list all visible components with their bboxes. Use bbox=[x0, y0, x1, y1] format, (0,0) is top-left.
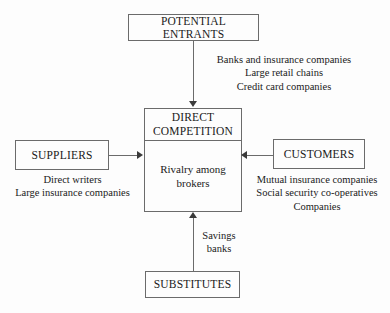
box-customers-label: CUSTOMERS bbox=[284, 148, 355, 161]
direct-competition-body: Rivalry among brokers bbox=[145, 141, 241, 211]
box-substitutes-label: SUBSTITUTES bbox=[154, 278, 232, 291]
box-potential-entrants-label: POTENTIAL ENTRANTS bbox=[129, 15, 258, 41]
box-suppliers-label: SUPPLIERS bbox=[31, 149, 92, 162]
box-suppliers: SUPPLIERS bbox=[15, 140, 109, 170]
arrowhead-right-icon bbox=[137, 151, 143, 159]
connector-suppliers-to-competition bbox=[109, 155, 139, 156]
note-potential-entrants: Banks and insurance companies Large reta… bbox=[186, 53, 382, 93]
note-suppliers: Direct writers Large insurance companies bbox=[2, 173, 143, 200]
arrowhead-down-icon bbox=[189, 101, 197, 107]
note-substitutes: Savings banks bbox=[190, 229, 248, 256]
five-forces-diagram: POTENTIAL ENTRANTS DIRECT COMPETITION Ri… bbox=[0, 0, 390, 313]
direct-competition-header: DIRECT COMPETITION bbox=[145, 109, 241, 141]
direct-competition-header-label: DIRECT COMPETITION bbox=[153, 111, 233, 138]
box-potential-entrants: POTENTIAL ENTRANTS bbox=[128, 14, 259, 41]
box-customers: CUSTOMERS bbox=[273, 139, 365, 169]
box-direct-competition: DIRECT COMPETITION Rivalry among brokers bbox=[144, 108, 242, 212]
direct-competition-body-label: Rivalry among brokers bbox=[160, 162, 226, 191]
arrowhead-up-icon bbox=[189, 212, 197, 218]
box-substitutes: SUBSTITUTES bbox=[145, 271, 240, 298]
note-customers: Mutual insurance companies Social securi… bbox=[244, 173, 390, 213]
arrowhead-left-icon bbox=[241, 151, 247, 159]
connector-customers-to-competition bbox=[246, 155, 273, 156]
